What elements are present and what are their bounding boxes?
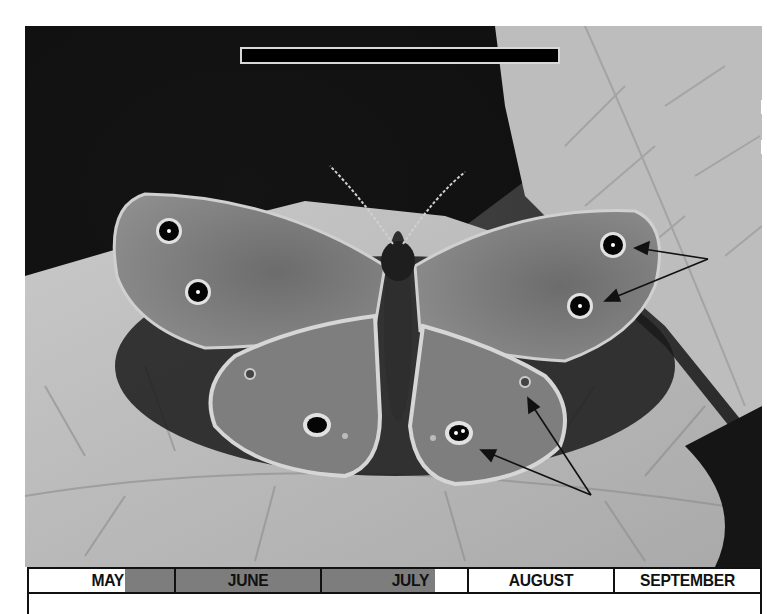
month-label: MAY: [92, 571, 125, 591]
caption-fragment: [0, 0, 767, 26]
flight-period-timeline: MAY JUNE JULY AUGUST SEPTEMBER: [27, 567, 762, 594]
month-label: JUNE: [228, 571, 269, 591]
month-label: JULY: [392, 571, 429, 591]
page-edge-tab: [761, 100, 767, 114]
month-label: AUGUST: [509, 571, 573, 591]
butterfly-photo: [25, 26, 762, 567]
month-label: SEPTEMBER: [640, 571, 735, 591]
page-edge-tab: [761, 140, 767, 154]
flight-period-highlight: [125, 569, 174, 592]
photo-illustration: [25, 26, 762, 567]
timeline-month-may: MAY: [29, 569, 176, 592]
caption-box: [27, 594, 762, 614]
timeline-month-july: JULY: [322, 569, 469, 592]
timeline-month-june: JUNE: [176, 569, 323, 592]
timeline-month-september: SEPTEMBER: [615, 569, 760, 592]
figure-title-bar: [240, 47, 560, 64]
timeline-month-august: AUGUST: [469, 569, 616, 592]
